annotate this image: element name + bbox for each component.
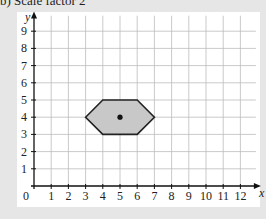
y-axis-arrow-icon [31,11,37,18]
y-tick-label: 6 [21,76,27,90]
x-tick-label: 3 [83,189,89,203]
x-tick-label: 11 [217,189,229,203]
x-tick-label: 2 [65,189,71,203]
centre-of-enlargement-point [117,115,122,120]
x-tick-label: 1 [48,189,54,203]
y-tick-label: 1 [21,162,27,176]
x-axis-label: x [258,186,265,200]
y-tick-label: 3 [21,127,27,141]
y-tick-label: 5 [21,93,27,107]
coordinate-grid: 1234567891011121234567890xy [0,0,266,219]
y-axis-label: y [24,10,31,24]
x-tick-label: 5 [117,189,123,203]
x-tick-label: 4 [100,189,106,203]
y-tick-label: 4 [21,110,27,124]
x-tick-label: 9 [186,189,192,203]
x-tick-label: 10 [200,189,212,203]
y-tick-label: 2 [21,145,27,159]
y-tick-label: 8 [21,41,27,55]
x-tick-label: 7 [151,189,157,203]
y-tick-label: 9 [21,24,27,38]
x-tick-label: 12 [234,189,246,203]
y-tick-label: 7 [21,59,27,73]
x-tick-label: 6 [134,189,140,203]
origin-label: 0 [23,189,29,203]
x-tick-label: 8 [169,189,175,203]
